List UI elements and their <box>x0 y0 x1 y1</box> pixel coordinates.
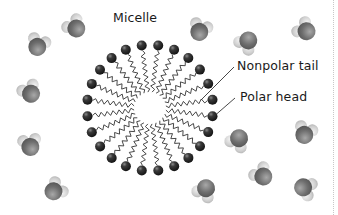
nonpolar-tail <box>151 51 160 93</box>
polar-head <box>121 161 131 171</box>
water-molecule <box>16 132 43 158</box>
micelle-diagram: Micelle Nonpolar tail Polar head <box>0 0 338 215</box>
polar-head <box>107 53 117 63</box>
polar-head <box>208 111 218 121</box>
polar-heads <box>83 41 218 176</box>
polar-head <box>169 161 179 171</box>
nonpolar-tail <box>93 108 135 117</box>
page-edge-divider <box>333 0 334 215</box>
water-molecule <box>189 174 221 205</box>
polar-head <box>153 166 163 176</box>
water-molecule <box>289 14 321 47</box>
nonpolar-tail-label: Nonpolar tail <box>237 58 319 73</box>
nonpolar-tail <box>166 99 208 108</box>
micelle-illustration <box>0 0 338 215</box>
polar-head <box>95 65 105 75</box>
polar-head <box>87 79 97 89</box>
nonpolar-tail <box>150 124 159 166</box>
micelle-label: Micelle <box>113 10 157 25</box>
polar-head <box>83 95 93 105</box>
nonpolar-tail <box>127 123 144 162</box>
polar-head <box>183 53 193 63</box>
nonpolar-tail <box>141 51 150 93</box>
nonpolar-tail <box>96 85 135 102</box>
polar-head <box>137 166 147 176</box>
nonpolar-tail <box>104 73 137 99</box>
polar-head <box>153 41 163 51</box>
nonpolar-tail <box>115 121 141 154</box>
water-molecule <box>222 124 254 155</box>
nonpolar-tail <box>104 118 137 144</box>
nonpolar-tail <box>166 109 208 118</box>
water-molecule <box>14 76 46 107</box>
polar-head <box>203 127 213 137</box>
polar-head <box>87 127 97 137</box>
leader-lines <box>201 67 235 118</box>
polar-head <box>83 111 93 121</box>
nonpolar-tail <box>115 62 141 95</box>
water-molecule <box>59 11 92 43</box>
nonpolar-tail <box>93 99 135 108</box>
water-molecule <box>23 31 53 60</box>
polar-head <box>183 153 193 163</box>
polar-head <box>195 65 205 75</box>
water-molecule <box>231 26 264 58</box>
nonpolar-tail <box>165 114 204 131</box>
water-molecules <box>14 11 321 206</box>
nonpolar-tails <box>93 51 208 166</box>
polar-head <box>137 41 147 51</box>
water-molecule <box>290 119 320 148</box>
water-molecule <box>291 173 320 203</box>
water-molecule <box>246 159 279 191</box>
polar-head <box>121 45 131 55</box>
nonpolar-tail <box>160 62 186 95</box>
polar-head <box>195 141 205 151</box>
polar-head <box>95 141 105 151</box>
water-molecule <box>185 16 215 45</box>
nonpolar-tail <box>160 121 186 154</box>
nonpolar-tail <box>141 124 150 166</box>
polar-head <box>169 45 179 55</box>
polar-head <box>203 79 213 89</box>
nonpolar-tail <box>163 73 196 99</box>
water-molecule <box>39 174 71 207</box>
nonpolar-tail <box>163 118 196 144</box>
polar-head <box>208 95 218 105</box>
nonpolar-tail <box>156 54 173 93</box>
polar-head-label: Polar head <box>240 89 307 104</box>
polar-head <box>107 153 117 163</box>
